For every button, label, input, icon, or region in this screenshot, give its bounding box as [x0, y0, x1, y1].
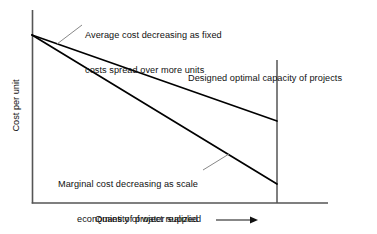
y-axis-label: Cost per unit	[11, 66, 22, 146]
annotation-optimal-capacity: Designed optimal capacity of projects	[188, 50, 342, 108]
chart-figure: Average cost decreasing as fixed costs s…	[0, 0, 377, 234]
x-axis-label: Quantity of water supplied	[95, 214, 201, 225]
annotation-optimal-capacity-line1: Designed optimal capacity of projects	[188, 73, 342, 85]
annotation-marginal-cost-line1: Marginal cost decreasing as scale	[38, 179, 198, 191]
annotation-average-cost-line1: Average cost decreasing as fixed	[85, 30, 222, 42]
